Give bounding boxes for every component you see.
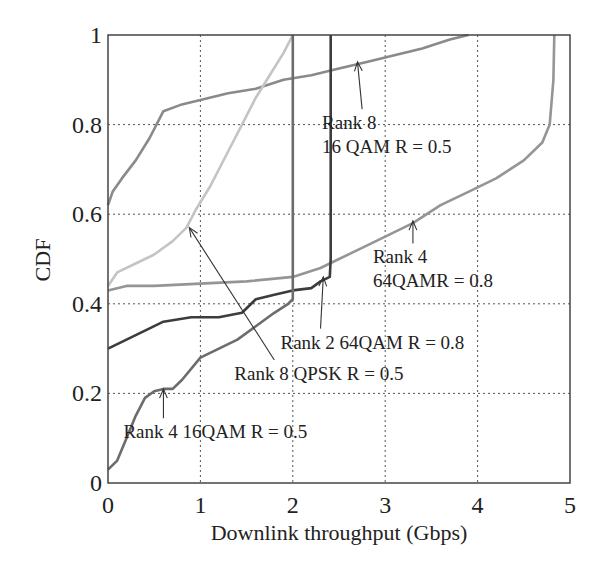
annotation-label: Rank 8 QPSK R = 0.5: [234, 363, 403, 384]
y-tick-label: 0: [90, 470, 102, 496]
annotation-label: Rank 8: [322, 112, 376, 133]
y-tick-label: 0.4: [72, 291, 102, 317]
annotation-arrow: [321, 277, 324, 329]
annotation-arrow: [189, 228, 274, 360]
annotation-label: Rank 2 64QAM R = 0.8: [281, 332, 465, 353]
x-tick-label: 4: [472, 492, 484, 518]
y-tick-label: 0.8: [72, 112, 102, 138]
annotations: Rank 816 QAM R = 0.5Rank 464QAMR = 0.8Ra…: [123, 62, 492, 442]
y-axis-label: CDF: [30, 239, 55, 282]
annotation-label: 64QAMR = 0.8: [373, 270, 493, 291]
cdf-chart: 01234500.20.40.60.81 Rank 816 QAM R = 0.…: [0, 0, 606, 581]
cdf-curve: [108, 35, 468, 205]
x-tick-label: 0: [102, 492, 114, 518]
cdf-curve: [108, 35, 331, 349]
y-tick-label: 1: [90, 22, 102, 48]
x-tick-label: 1: [194, 492, 206, 518]
annotation-label: Rank 4 16QAM R = 0.5: [123, 421, 307, 442]
y-tick-label: 0.2: [72, 380, 102, 406]
annotation-label: 16 QAM R = 0.5: [322, 136, 451, 157]
arrowhead-icon: [189, 228, 197, 238]
x-tick-label: 2: [287, 492, 299, 518]
x-axis-label: Downlink throughput (Gbps): [211, 520, 468, 545]
axis-ticks: 01234500.20.40.60.81: [72, 22, 576, 518]
y-tick-label: 0.6: [72, 201, 102, 227]
x-tick-label: 3: [379, 492, 391, 518]
x-tick-label: 5: [564, 492, 576, 518]
data-curves: [108, 35, 554, 470]
annotation-label: Rank 4: [373, 246, 428, 267]
